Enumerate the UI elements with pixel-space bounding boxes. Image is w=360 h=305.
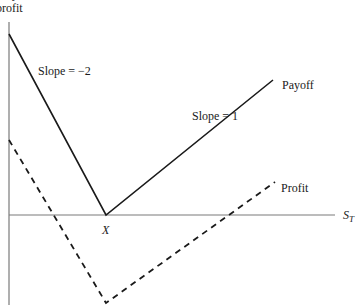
profit-line — [9, 140, 275, 303]
x-axis-label: ST — [343, 208, 355, 224]
slope-right-label: Slope = 1 — [192, 109, 238, 123]
payoff-label: Payoff — [282, 78, 314, 92]
y-axis-label: profit — [0, 1, 23, 15]
slope-left-label: Slope = −2 — [38, 64, 91, 78]
strike-label: X — [101, 223, 110, 237]
profit-label: Profit — [281, 181, 309, 195]
payoff-line — [9, 34, 273, 215]
x-axis-label-sub: T — [349, 214, 355, 224]
payoff-profit-chart: Payoff and profit Slope = −2 Slope = 1 P… — [0, 0, 360, 305]
